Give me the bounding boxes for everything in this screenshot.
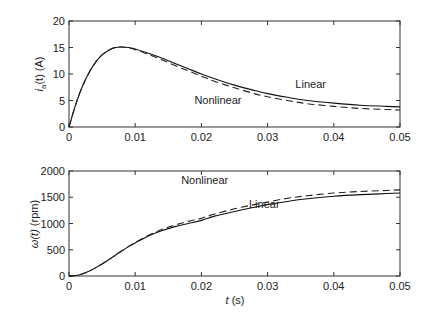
y-tick-label: 2000 <box>41 165 65 177</box>
y-tick-label: 1500 <box>41 191 65 203</box>
y-tick-label: 20 <box>53 15 65 27</box>
bottom-ylabel-symbol: ω(t) <box>28 229 40 248</box>
annotation-nonlinear: Nonlinear <box>194 94 241 106</box>
plot-frame <box>69 21 400 127</box>
armature-current-plot: 00.010.020.030.040.0505101520LinearNonli… <box>53 15 411 143</box>
plot-frame <box>69 171 400 276</box>
y-tick-label: 15 <box>53 42 65 54</box>
annotation-linear: Linear <box>249 198 280 210</box>
xlabel-units: (s) <box>229 294 245 306</box>
x-tick-label: 0.04 <box>323 280 344 292</box>
bottom-ylabel-units: (rpm) <box>28 200 40 229</box>
x-tick-label: 0.02 <box>191 280 212 292</box>
y-tick-label: 0 <box>59 121 65 133</box>
series-linear-line <box>69 47 400 127</box>
y-tick-label: 1000 <box>41 218 65 230</box>
x-tick-label: 0 <box>66 280 72 292</box>
speed-plot: 00.010.020.030.040.050500100015002000Non… <box>41 165 411 292</box>
series-nonlinear-line <box>69 47 400 127</box>
x-tick-label: 0.01 <box>124 131 145 143</box>
y-tick-label: 0 <box>59 270 65 282</box>
top-y-axis-label: ia(t) (A) <box>33 56 48 91</box>
x-tick-label: 0.05 <box>389 131 410 143</box>
x-tick-label: 0.05 <box>389 280 410 292</box>
series-linear-line <box>69 193 400 276</box>
y-tick-label: 500 <box>47 244 65 256</box>
annotation-linear: Linear <box>295 78 326 90</box>
x-tick-label: 0.01 <box>124 280 145 292</box>
chart-figure: 00.010.020.030.040.0505101520LinearNonli… <box>0 0 436 322</box>
x-tick-label: 0.03 <box>257 131 278 143</box>
x-tick-label: 0.04 <box>323 131 344 143</box>
annotation-nonlinear: Nonlinear <box>181 174 228 186</box>
bottom-y-axis-label: ω(t) (rpm) <box>28 200 40 248</box>
x-axis-label: t (s) <box>226 294 245 306</box>
series-nonlinear-line <box>69 190 400 276</box>
x-tick-label: 0.03 <box>257 280 278 292</box>
x-tick-label: 0.02 <box>191 131 212 143</box>
y-tick-label: 10 <box>53 68 65 80</box>
top-ylabel-units: (t) (A) <box>33 56 45 84</box>
x-tick-label: 0 <box>66 131 72 143</box>
y-tick-label: 5 <box>59 95 65 107</box>
